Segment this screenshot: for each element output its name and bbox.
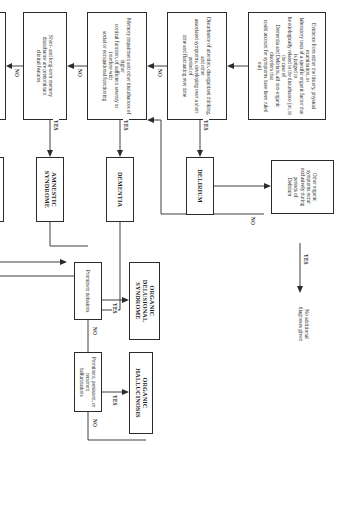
terminal-no-additional-diagnoses: No additional diagnoses given [298, 292, 310, 356]
criteria-box-delirium: Disturbance of attention, disorganized t… [167, 12, 227, 120]
edge-label-delusional-yes: YES [112, 302, 118, 315]
hallucinations-criteria-line-2: hallucinations [79, 356, 85, 408]
delirium-criteria-line-2: associated symptoms, developing over a s… [188, 16, 200, 116]
edge-label-amnestic-yes: YES [53, 119, 59, 132]
edge-label-delirium-no: NO [157, 68, 163, 78]
delirium-criteria-line-1: Disturbance of attention, disorganized t… [200, 16, 212, 116]
amnestic-criteria-line-2: disturbance are predominant [42, 35, 48, 97]
flowchart-canvas: Evidence from either the history, physic… [0, 0, 360, 518]
criteria-box-exclusivity: Other organic symptoms occur exclusively… [271, 160, 334, 214]
diagnosis-label-dementia: DEMENTIA [117, 172, 124, 207]
amnestic-criteria-line-1: Short- and long-term memory [48, 35, 54, 97]
criteria-box-amnestic: Short- and long-term memory disturbance … [23, 12, 67, 120]
edge-label-delusional-no: NO [92, 326, 98, 336]
edge-label-dementia-yes: YES [123, 119, 129, 132]
edge-label-amnestic-no: NO [14, 68, 20, 78]
diagnosis-box-delusional: ORGANIC DELUSIONAL SYNDROME [129, 262, 160, 340]
diagnosis-label-delusional-1: ORGANIC DELUSIONAL [141, 266, 155, 336]
dementia-criteria-line-2: cortical function, of sufficient severit… [108, 16, 120, 116]
diagnosis-label-delirium: DELIRIUM [197, 169, 204, 203]
no-additional-line-1: No additional [304, 292, 310, 356]
diagnosis-box-delirium: DELIRIUM [186, 157, 214, 215]
edge-label-exclusivity-yes: YES [303, 253, 309, 266]
evidence-line-4: Dementia and Delirium, all non-organic d… [269, 16, 281, 116]
exclusivity-line-5: Delirium [287, 168, 293, 206]
criteria-box-personality: Marked change in personality involving e… [0, 12, 6, 120]
diagnosis-box-personality: ORGANIC PERSONALITY SYNDROME [0, 157, 4, 222]
diagnosis-label-amnestic-1: AMNESTIC [50, 171, 57, 208]
exclusivity-line-2: symptoms occur [306, 168, 312, 206]
criteria-box-organic-evidence: Evidence from either the history, physic… [248, 12, 326, 120]
diagnosis-box-amnestic: AMNESTIC SYNDROME [36, 157, 64, 222]
hallucinations-criteria-line-1: Prominent, persistent, or recurrent [85, 356, 97, 408]
criteria-box-delusions: Prominent delusions [74, 262, 102, 320]
evidence-line-3: be etiologically related to the disturba… [281, 16, 293, 116]
diagnosis-label-amnestic-2: SYNDROME [43, 171, 50, 208]
flowchart-stage: Evidence from either the history, physic… [0, 0, 360, 518]
diagnosis-label-hallucinosis: ORGANIC HALLUCINOSIS [134, 356, 148, 430]
edge-label-hallucinosis-yes: YES [112, 394, 118, 407]
exclusivity-line-3: exclusively during [299, 168, 305, 206]
no-additional-line-2: diagnoses given [298, 292, 304, 356]
diagnosis-box-dementia: DEMENTIA [106, 157, 134, 222]
dementia-criteria-line-3: social or occupational functioning [102, 16, 108, 116]
delirium-criteria-line-3: time and fluctuating over time [182, 16, 188, 116]
criteria-box-dementia: Memory impairment and other disturbances… [87, 12, 147, 120]
dementia-criteria-line-1: Memory impairment and other disturbances… [120, 16, 132, 116]
edge-label-exclusivity-no: NO [250, 216, 256, 226]
edge-label-dementia-no: NO [77, 68, 83, 78]
evidence-line-5: could account for symptoms have been rul… [257, 16, 269, 116]
delusions-criteria-line-1: Prominent delusions [85, 270, 91, 312]
diagnosis-box-hallucinosis: ORGANIC HALLUCINOSIS [129, 352, 153, 434]
edge-label-delirium-yes: YES [203, 119, 209, 132]
evidence-line-2: laboratory tests of a specific organic f… [293, 16, 305, 116]
criteria-box-hallucinations: Prominent, persistent, or recurrent hall… [74, 352, 102, 412]
diagnosis-label-delusional-2: SYNDROME [134, 266, 141, 336]
exclusivity-line-1: Other organic [312, 168, 318, 206]
evidence-line-1: Evidence from either the history, physic… [305, 16, 317, 116]
edge-label-hallucinosis-no: NO [92, 418, 98, 428]
